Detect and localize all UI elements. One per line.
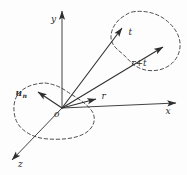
normal-vector-subscript: n [23,92,28,99]
figure-background [0,0,187,175]
y-axis-label: y [50,14,57,24]
x-axis-label: x [166,106,171,116]
origin-label: o [54,109,60,119]
r-vector-label: r [102,91,107,101]
normal-vector-label: u [16,88,23,98]
coordinate-system-diagram: y x z o r t r+t u n [0,0,187,175]
t-vector-label: t [129,27,133,37]
r-plus-t-vector-label: r+t [131,58,147,68]
z-axis-label: z [17,159,23,169]
vector-diagram-figure: y x z o r t r+t u n [0,0,187,175]
